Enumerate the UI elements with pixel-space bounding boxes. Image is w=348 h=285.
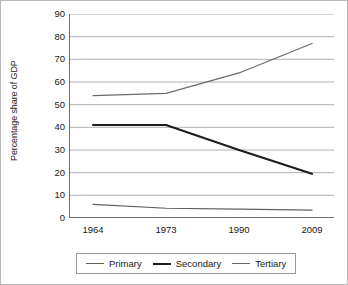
- legend-label: Secondary: [176, 258, 221, 269]
- series-line-secondary: [93, 125, 312, 174]
- legend-label: Tertiary: [255, 258, 286, 269]
- axis-lines: [69, 14, 334, 218]
- y-tick-label-50: 50: [39, 100, 65, 110]
- series-line-primary: [93, 204, 312, 210]
- y-tick-label-30: 30: [39, 145, 65, 155]
- legend-label: Primary: [109, 258, 142, 269]
- y-tick-label-70: 70: [39, 55, 65, 65]
- axis-tickmarks: [69, 14, 312, 218]
- y-tick-label-0: 0: [39, 213, 65, 223]
- series-lines: [93, 43, 312, 210]
- x-axis-tick-labels: 1964197319902009: [69, 221, 334, 237]
- y-tick-label-40: 40: [39, 123, 65, 133]
- chart-figure: Percentage share of GDP 0102030405060708…: [0, 0, 348, 285]
- y-tick-label-20: 20: [39, 168, 65, 178]
- x-tick-label-2009: 2009: [289, 225, 335, 235]
- y-tick-label-60: 60: [39, 77, 65, 87]
- plot-svg: [69, 14, 334, 218]
- legend-swatch-secondary-icon: [153, 263, 171, 265]
- legend-entry-primary[interactable]: Primary: [86, 258, 142, 269]
- gridlines: [69, 14, 334, 218]
- legend-swatch-tertiary-icon: [232, 263, 250, 264]
- x-tick-label-1964: 1964: [70, 225, 116, 235]
- legend-entry-tertiary[interactable]: Tertiary: [232, 258, 286, 269]
- legend-entry-secondary[interactable]: Secondary: [153, 258, 221, 269]
- legend-swatch-primary-icon: [86, 263, 104, 264]
- x-tick-label-1973: 1973: [143, 225, 189, 235]
- series-line-tertiary: [93, 43, 312, 95]
- y-tick-label-10: 10: [39, 191, 65, 201]
- x-tick-label-1990: 1990: [216, 225, 262, 235]
- y-axis-tick-labels: 0102030405060708090: [37, 14, 65, 218]
- y-tick-label-90: 90: [39, 9, 65, 19]
- plot-area: [69, 14, 334, 218]
- chart-legend: PrimarySecondaryTertiary: [76, 253, 296, 274]
- y-tick-label-80: 80: [39, 32, 65, 42]
- y-axis-title: Percentage share of GDP: [9, 51, 25, 171]
